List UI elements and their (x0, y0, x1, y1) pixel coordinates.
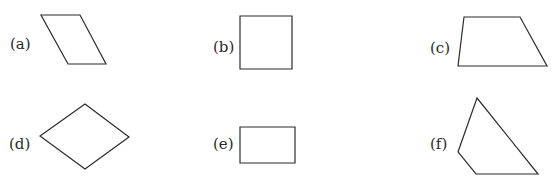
label-a: (a) (10, 37, 31, 52)
label-c: (c) (430, 41, 450, 56)
shape-c-trapezium (458, 17, 547, 66)
shape-e-rectangle (240, 127, 295, 163)
label-e: (e) (213, 137, 234, 152)
shape-f-quadrilateral (458, 98, 538, 174)
label-d: (d) (9, 137, 30, 152)
label-b: (b) (213, 40, 234, 55)
shape-d-rhombus (40, 104, 129, 169)
shapes-canvas (0, 0, 560, 186)
shape-b-square (240, 16, 292, 69)
label-f: (f) (430, 137, 447, 152)
shape-a-parallelogram (41, 15, 106, 64)
